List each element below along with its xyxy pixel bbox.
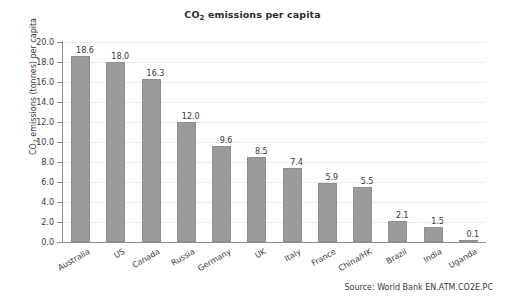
y-axis-line [62,41,63,243]
bar-value-label: 8.5 [244,147,278,156]
bar-slot: 18.6 [63,42,98,242]
bar-slot: 2.1 [380,42,415,242]
bar-slot: 8.5 [239,42,274,242]
x-axis-tick-label: UK [202,247,267,290]
y-axis-tick-label: 6.0 [14,178,54,187]
chart-title: CO2 emissions per capita [0,9,505,20]
y-axis-tick-label: 16.0 [14,78,54,87]
bar-value-label: 2.1 [385,211,419,220]
bar[interactable] [247,157,266,242]
x-axis-tick-label: Italy [238,247,303,290]
x-axis-tick-label: Canada [97,247,162,290]
y-axis-tick-label: 4.0 [14,198,54,207]
x-axis-tick-label: Australia [26,247,91,290]
bar[interactable] [353,187,372,242]
bar-slot: 18.0 [98,42,133,242]
x-axis-tick-label: US [61,247,126,290]
bar-slot: 7.4 [275,42,310,242]
bar-slot: 0.1 [451,42,486,242]
bar-slot: 16.3 [134,42,169,242]
bar-slot: 12.0 [169,42,204,242]
bar[interactable] [106,62,125,242]
y-axis-tick-label: 12.0 [14,118,54,127]
y-axis-tick-label: 20.0 [14,38,54,47]
chart-title-pre: CO [184,9,199,20]
x-axis-tick-label: Germany [167,247,232,290]
y-axis-tick-label: 14.0 [14,98,54,107]
bar[interactable] [142,79,161,242]
y-axis-tick-label: 10.0 [14,138,54,147]
y-axis-tick-label: 8.0 [14,158,54,167]
bar[interactable] [177,122,196,242]
chart-title-post: emissions per capita [205,9,321,20]
bar[interactable] [424,227,443,242]
bar-value-label: 9.6 [209,136,243,145]
bar-slot: 1.5 [416,42,451,242]
bar-slot: 5.9 [310,42,345,242]
bar[interactable] [283,168,302,242]
bar-value-label: 16.3 [139,69,173,78]
bar-slot: 9.6 [204,42,239,242]
plot-area: 18.618.016.312.09.68.57.45.95.52.11.50.1 [63,42,486,242]
bar-value-label: 5.9 [315,173,349,182]
bar-value-label: 0.1 [456,230,490,239]
bar-value-label: 7.4 [280,158,314,167]
bar-slot: 5.5 [345,42,380,242]
x-axis-tick-label: France [273,247,338,290]
bar[interactable] [388,221,407,242]
bar[interactable] [318,183,337,242]
y-axis-tick-label: 2.0 [14,218,54,227]
bar-value-label: 5.5 [350,177,384,186]
bar-value-label: 18.6 [68,46,102,55]
bar[interactable] [71,56,90,242]
bar-value-label: 18.0 [103,52,137,61]
chart-title-subscript: 2 [200,14,205,22]
source-note: Source: World Bank EN.ATM.CO2E.PC [344,283,493,292]
chart-page: CO2 emissions per capita CO2 emissions (… [0,0,505,300]
y-axis-tick-label: 0.0 [14,238,54,247]
bar-value-label: 12.0 [174,112,208,121]
x-axis-tick-label: Russia [132,247,197,290]
bar[interactable] [212,146,231,242]
y-axis-tick-labels: 20.018.016.014.012.010.08.06.04.02.00.0 [12,42,54,242]
y-axis-tick-label: 18.0 [14,58,54,67]
bar-value-label: 1.5 [421,217,455,226]
